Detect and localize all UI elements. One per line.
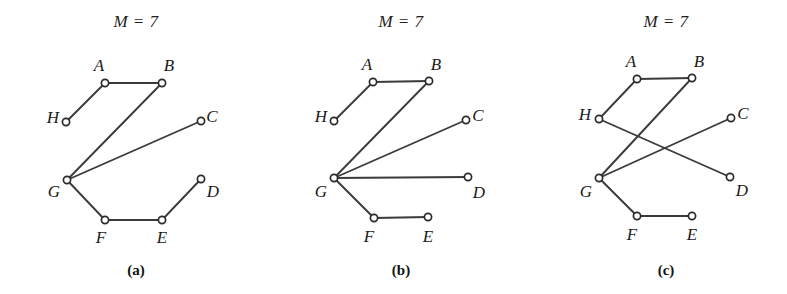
- node-label-G: G: [580, 182, 592, 202]
- node-label-D: D: [736, 181, 748, 201]
- node-G[interactable]: [595, 174, 602, 181]
- panel-c-caption: (c): [658, 262, 675, 279]
- node-label-E: E: [687, 225, 697, 245]
- node-label-C: C: [737, 104, 748, 124]
- node-label-A: A: [626, 52, 636, 72]
- node-E[interactable]: [688, 212, 695, 219]
- edge-A-B: [637, 78, 692, 79]
- node-A[interactable]: [633, 75, 640, 82]
- node-label-F: F: [627, 225, 637, 245]
- node-B[interactable]: [688, 74, 695, 81]
- node-D[interactable]: [726, 173, 733, 180]
- graph-figure: M = 7ABCDEFGH(a)M = 7ABCDEFGH(b)M = 7ABC…: [0, 0, 787, 294]
- panel-c-graph: [0, 0, 787, 294]
- edge-G-F: [599, 178, 637, 216]
- edge-G-B: [599, 78, 692, 178]
- node-label-B: B: [694, 52, 704, 72]
- node-label-H: H: [579, 105, 591, 125]
- edge-A-H: [599, 79, 637, 119]
- node-H[interactable]: [595, 115, 602, 122]
- node-C[interactable]: [727, 114, 734, 121]
- node-F[interactable]: [633, 212, 640, 219]
